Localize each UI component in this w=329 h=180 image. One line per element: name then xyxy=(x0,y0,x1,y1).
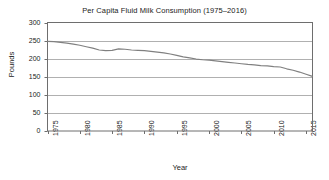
plot-frame xyxy=(48,23,313,132)
chart-figure: Per Capita Fluid Milk Consumption (1975–… xyxy=(0,0,329,180)
plot-area xyxy=(0,0,329,180)
data-series-line xyxy=(48,41,313,76)
gridline-group xyxy=(48,42,313,114)
